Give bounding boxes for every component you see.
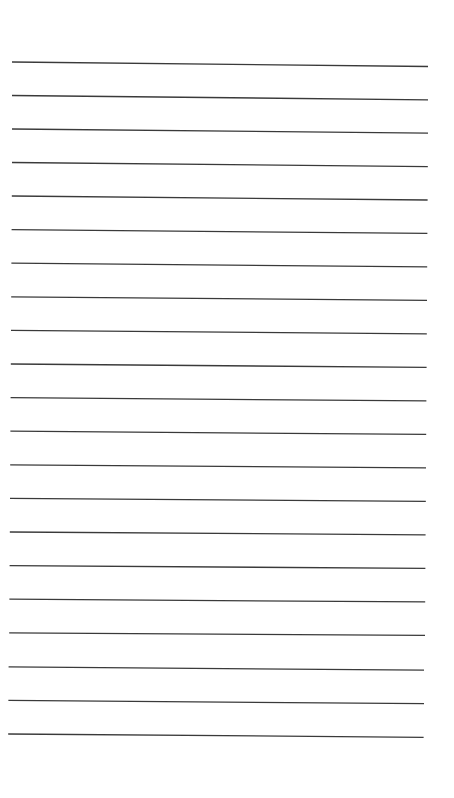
ruled-line-18 xyxy=(9,633,425,636)
ruled-line-10 xyxy=(11,364,427,367)
ruled-line-20 xyxy=(8,700,424,703)
ruled-line-2 xyxy=(12,96,428,100)
ruled-line-8 xyxy=(11,297,427,301)
ruled-line-7 xyxy=(11,263,427,267)
lined-paper-page xyxy=(0,0,454,798)
ruled-line-13 xyxy=(10,465,426,468)
ruled-line-11 xyxy=(11,398,427,401)
ruled-line-1 xyxy=(12,62,428,67)
ruled-line-21 xyxy=(8,734,423,737)
ruled-line-4 xyxy=(12,163,428,167)
ruled-line-5 xyxy=(12,196,428,200)
ruled-line-3 xyxy=(12,129,428,133)
ruled-line-17 xyxy=(9,599,425,602)
ruled-line-19 xyxy=(9,667,424,670)
ruled-line-14 xyxy=(10,498,426,501)
ruled-lines xyxy=(0,0,454,798)
ruled-line-12 xyxy=(10,431,426,434)
ruled-line-9 xyxy=(11,330,427,334)
ruled-line-16 xyxy=(10,566,426,569)
ruled-line-6 xyxy=(12,230,428,234)
ruled-line-15 xyxy=(10,532,426,535)
